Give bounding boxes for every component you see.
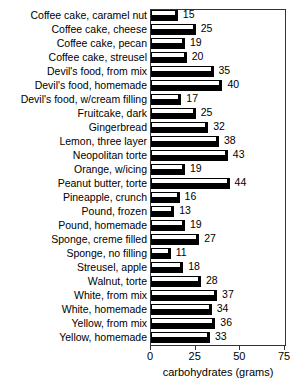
bar-front-face — [151, 198, 180, 203]
bar-front-face — [151, 72, 214, 77]
bar-value-label: 11 — [176, 246, 187, 259]
category-label: Fruitcake, dark — [0, 107, 147, 120]
bar-end-cap — [207, 332, 210, 343]
bar-front-face — [151, 100, 181, 105]
category-label: Pineapple, crunch — [0, 191, 147, 204]
bar-end-cap — [214, 290, 217, 301]
category-label: Sponge, no filling — [0, 247, 147, 260]
bar-value-label: 33 — [215, 330, 227, 343]
category-label: Streusel, apple — [0, 261, 147, 274]
bar-value-label: 28 — [206, 274, 218, 287]
bar-front-face — [151, 142, 219, 147]
bar — [151, 220, 185, 234]
bar-end-cap — [182, 164, 185, 175]
bar-value-label: 25 — [201, 106, 213, 119]
bar-front-face — [151, 16, 178, 21]
category-label: Peanut butter, torte — [0, 177, 147, 190]
bar-front-face — [151, 226, 185, 231]
bar-value-label: 19 — [190, 218, 202, 231]
bar-end-cap — [209, 304, 212, 315]
bar-end-cap — [182, 38, 185, 49]
bar-value-label: 40 — [227, 78, 239, 91]
bar-chart: Coffee cake, caramel nut15Coffee cake, c… — [0, 0, 292, 383]
bar-end-cap — [205, 122, 208, 133]
bar-front-face — [151, 324, 215, 329]
category-label: Coffee cake, pecan — [0, 37, 147, 50]
x-axis-title: carbohydrates (grams) — [150, 366, 286, 378]
bar-end-cap — [175, 10, 178, 21]
bar-front-face — [151, 268, 183, 273]
bar-front-face — [151, 338, 210, 343]
bar-front-face — [151, 58, 187, 63]
bar — [151, 206, 174, 220]
bar-value-label: 27 — [204, 232, 216, 245]
bar-value-label: 25 — [201, 22, 213, 35]
x-tick-label: 50 — [224, 350, 254, 363]
bar — [151, 10, 178, 24]
bar — [151, 136, 219, 150]
bar-value-label: 17 — [186, 92, 198, 105]
category-label: Pound, homemade — [0, 219, 147, 232]
category-label: Devil's food, from mix — [0, 65, 147, 78]
bar-front-face — [151, 30, 196, 35]
category-label: Gingerbread — [0, 121, 147, 134]
bar-end-cap — [184, 52, 187, 63]
category-label: Yellow, homemade — [0, 331, 147, 344]
category-label: Yellow, from mix — [0, 317, 147, 330]
bar-end-cap — [227, 178, 230, 189]
bar — [151, 304, 212, 318]
bar-front-face — [151, 86, 222, 91]
category-label: Neopolitan torte — [0, 149, 147, 162]
bar-value-label: 34 — [217, 302, 229, 315]
category-label: Coffee cake, streusel — [0, 51, 147, 64]
bar-value-label: 38 — [224, 134, 236, 147]
bar-end-cap — [193, 108, 196, 119]
bar-front-face — [151, 296, 217, 301]
category-label: Orange, w/icing — [0, 163, 147, 176]
category-label: White, homemade — [0, 303, 147, 316]
x-tick-label: 0 — [135, 350, 165, 363]
bar-value-label: 20 — [192, 50, 204, 63]
bar-end-cap — [168, 248, 171, 259]
bar-value-label: 13 — [179, 204, 191, 217]
bar-front-face — [151, 240, 199, 245]
bar-value-label: 15 — [183, 8, 195, 21]
bar-value-label: 36 — [220, 316, 232, 329]
bar — [151, 122, 208, 136]
bar-end-cap — [178, 94, 181, 105]
bar — [151, 94, 181, 108]
category-label: Devil's food, w/cream filling — [0, 93, 147, 106]
bar — [151, 38, 185, 52]
category-label: Sponge, creme filled — [0, 233, 147, 246]
chart-title — [0, 0, 292, 1]
bar-value-label: 19 — [190, 36, 202, 49]
bar — [151, 290, 217, 304]
bar — [151, 52, 187, 66]
bar-value-label: 32 — [213, 120, 225, 133]
bar-value-label: 16 — [185, 190, 197, 203]
bar-end-cap — [225, 150, 228, 161]
bar-front-face — [151, 114, 196, 119]
bar-front-face — [151, 310, 212, 315]
bar — [151, 248, 171, 262]
bar — [151, 332, 210, 346]
bar-front-face — [151, 184, 230, 189]
bar-end-cap — [211, 66, 214, 77]
bar-end-cap — [216, 136, 219, 147]
bar-end-cap — [212, 318, 215, 329]
x-axis-line — [150, 345, 286, 346]
bar-end-cap — [196, 234, 199, 245]
bar-end-cap — [198, 276, 201, 287]
bar — [151, 318, 215, 332]
bar-front-face — [151, 128, 208, 133]
bar-value-label: 43 — [233, 148, 245, 161]
bar-end-cap — [182, 220, 185, 231]
bar — [151, 108, 196, 122]
bar — [151, 262, 183, 276]
bar-end-cap — [180, 262, 183, 273]
category-label: Devil's food, homemade — [0, 79, 147, 92]
category-label: Lemon, three layer — [0, 135, 147, 148]
bar — [151, 276, 201, 290]
x-tick-label: 75 — [269, 350, 292, 363]
bar-value-label: 19 — [190, 162, 202, 175]
